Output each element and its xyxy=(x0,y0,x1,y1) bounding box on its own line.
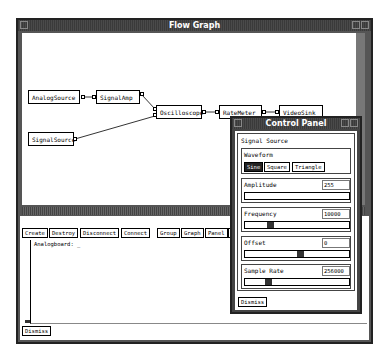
frequency-slider-thumb[interactable] xyxy=(267,222,274,228)
control-panel-titlebar[interactable]: Control Panel xyxy=(232,118,360,129)
signal-source-group: Signal Source Waveform Sine Square Trian… xyxy=(237,133,355,291)
sample-rate-slider-thumb[interactable] xyxy=(265,279,272,285)
maximize-button[interactable] xyxy=(361,21,369,29)
control-panel-title: Control Panel xyxy=(266,119,327,128)
graph-button[interactable]: Graph xyxy=(181,228,204,238)
amplitude-slider[interactable] xyxy=(244,192,350,200)
frequency-group: Frequency 10000 xyxy=(241,207,351,232)
frequency-label: Frequency xyxy=(244,210,277,217)
disconnect-button[interactable]: Disconnect xyxy=(80,228,119,238)
node-signalsource[interactable]: SignalSource xyxy=(28,132,74,146)
console-scroll-thumb[interactable] xyxy=(25,320,30,323)
amplitude-label: Amplitude xyxy=(244,181,277,188)
port[interactable] xyxy=(202,110,206,114)
minimize-button[interactable] xyxy=(341,119,349,127)
sample-rate-group: Sample Rate 256000 xyxy=(241,264,351,289)
waveform-square-button[interactable]: Square xyxy=(264,162,290,172)
flow-graph-title: Flow Graph xyxy=(169,21,220,30)
destroy-button[interactable]: Destroy xyxy=(49,228,78,238)
waveform-label: Waveform xyxy=(244,151,273,158)
frequency-slider[interactable] xyxy=(244,221,350,229)
flow-graph-titlebar[interactable]: Flow Graph xyxy=(18,20,371,31)
node-signalamp[interactable]: SignalAmp xyxy=(96,90,140,104)
console-prompt: Analogboard: _ xyxy=(34,241,80,247)
offset-label: Offset xyxy=(244,239,266,246)
minimize-button[interactable] xyxy=(352,21,360,29)
offset-value-field[interactable]: 0 xyxy=(322,238,350,248)
offset-slider-thumb[interactable] xyxy=(297,251,304,257)
create-button[interactable]: Create xyxy=(22,228,48,238)
port[interactable] xyxy=(73,137,77,141)
window-menu-button[interactable] xyxy=(20,21,28,29)
sample-rate-value-field[interactable]: 256000 xyxy=(322,266,350,276)
waveform-group: Waveform Sine Square Triangle xyxy=(241,148,351,174)
sample-rate-label: Sample Rate xyxy=(244,267,284,274)
node-oscilloscope[interactable]: Oscilloscope xyxy=(156,105,202,119)
amplitude-value-field[interactable]: 255 xyxy=(322,180,350,190)
port[interactable] xyxy=(262,110,266,114)
panel-button[interactable]: Panel xyxy=(205,228,228,238)
control-panel-window: Control Panel Signal Source Waveform Sin… xyxy=(230,116,362,314)
port[interactable] xyxy=(81,95,85,99)
connect-button[interactable]: Connect xyxy=(121,228,150,238)
window-menu-button[interactable] xyxy=(234,119,242,127)
offset-slider[interactable] xyxy=(244,250,350,258)
waveform-sine-button[interactable]: Sine xyxy=(244,162,263,172)
group-button[interactable]: Group xyxy=(157,228,180,238)
offset-group: Offset 0 xyxy=(241,236,351,261)
port[interactable] xyxy=(140,92,144,96)
frequency-value-field[interactable]: 10000 xyxy=(322,209,350,219)
node-analogsource[interactable]: AnalogSource xyxy=(28,90,80,104)
amplitude-group: Amplitude 255 xyxy=(241,178,351,203)
sample-rate-slider[interactable] xyxy=(244,278,350,286)
dismiss-button[interactable]: Dismiss xyxy=(22,326,51,336)
section-title: Signal Source xyxy=(241,137,288,144)
maximize-button[interactable] xyxy=(350,119,358,127)
waveform-triangle-button[interactable]: Triangle xyxy=(292,162,325,172)
control-panel-body: Signal Source Waveform Sine Square Trian… xyxy=(235,131,357,310)
control-panel-dismiss-button[interactable]: Dismiss xyxy=(238,297,267,307)
